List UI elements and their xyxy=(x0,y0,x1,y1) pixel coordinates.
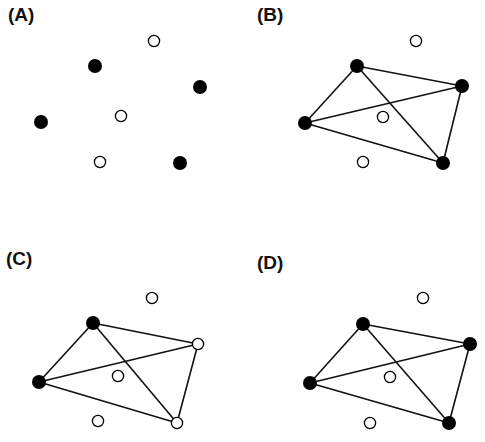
edge-line xyxy=(443,86,462,163)
filled-node-icon xyxy=(32,375,46,389)
open-node-icon xyxy=(112,370,123,381)
filled-node-icon xyxy=(298,116,312,130)
open-node-icon xyxy=(146,292,157,303)
panel-a xyxy=(34,35,207,170)
open-node-icon xyxy=(171,417,182,428)
open-node-icon xyxy=(384,371,395,382)
open-node-icon xyxy=(364,417,375,428)
edge-line xyxy=(305,123,443,163)
filled-node-icon xyxy=(88,59,102,73)
edge-line xyxy=(39,323,93,382)
graph-canvas xyxy=(0,0,485,442)
edge-line xyxy=(363,324,449,423)
filled-node-icon xyxy=(350,59,364,73)
filled-node-icon xyxy=(455,79,469,93)
filled-node-icon xyxy=(436,156,450,170)
open-node-icon xyxy=(410,35,421,46)
edge-line xyxy=(310,324,363,383)
open-node-icon xyxy=(92,415,103,426)
edge-line xyxy=(310,383,449,423)
open-node-icon xyxy=(357,156,368,167)
filled-node-icon xyxy=(193,80,207,94)
open-node-icon xyxy=(192,338,203,349)
filled-node-icon xyxy=(86,316,100,330)
filled-node-icon xyxy=(356,317,370,331)
filled-node-icon xyxy=(463,337,477,351)
open-node-icon xyxy=(115,110,126,121)
filled-node-icon xyxy=(34,115,48,129)
panel-d xyxy=(303,292,477,430)
filled-node-icon xyxy=(173,156,187,170)
open-node-icon xyxy=(94,156,105,167)
edge-line xyxy=(449,344,470,423)
open-node-icon xyxy=(417,292,428,303)
panel-c xyxy=(32,292,204,428)
edge-line xyxy=(177,344,198,423)
open-node-icon xyxy=(148,35,159,46)
panel-b xyxy=(298,35,469,170)
edge-line xyxy=(363,324,470,344)
edge-line xyxy=(305,66,357,123)
open-node-icon xyxy=(377,111,388,122)
edge-line xyxy=(39,382,177,423)
filled-node-icon xyxy=(442,416,456,430)
filled-node-icon xyxy=(303,376,317,390)
